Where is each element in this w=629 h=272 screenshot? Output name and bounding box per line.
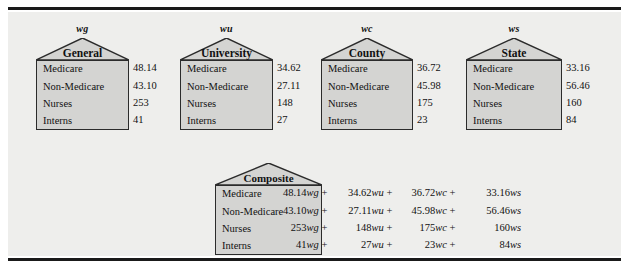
house-body: MedicareNon-MedicareNursesInterns: [321, 60, 413, 130]
plus-operator: +: [384, 239, 395, 250]
plus-operator: +: [384, 222, 395, 233]
house-value: 160: [566, 97, 582, 108]
house-row-list: MedicareNon-MedicareNursesInterns: [322, 61, 412, 129]
composite-term: 33.16ws: [459, 187, 521, 198]
house-value: 48.14: [133, 62, 157, 73]
weight-symbol: ws: [510, 205, 521, 216]
row-label: Medicare: [43, 63, 83, 74]
weight-symbol: wg: [307, 222, 319, 233]
house-roof: County: [321, 38, 413, 60]
row-label: Medicare: [473, 63, 513, 74]
house-roof: General: [36, 38, 129, 60]
house-title: State: [466, 47, 562, 59]
row-label: Interns: [43, 115, 72, 126]
weight-symbol: ws: [510, 187, 521, 198]
house-row-list: MedicareNon-MedicareNursesInterns: [37, 61, 128, 129]
composite-term: 45.98wc +: [396, 205, 458, 216]
row-label: Nurses: [43, 98, 72, 109]
plus-operator: +: [319, 205, 330, 216]
row-label: Interns: [222, 240, 251, 251]
plus-operator: +: [319, 187, 330, 198]
weight-symbol: wu: [372, 205, 384, 216]
row-label: Non-Medicare: [473, 81, 534, 92]
house-value: 84: [566, 114, 577, 125]
row-label: Interns: [187, 115, 216, 126]
plus-operator: +: [447, 239, 458, 250]
row-label: Medicare: [222, 188, 262, 199]
top-rule: [8, 7, 621, 10]
house-value: 27: [277, 114, 288, 125]
row-label: Non-Medicare: [328, 81, 389, 92]
composite-term: 84ws: [459, 239, 521, 250]
row-label: Medicare: [187, 63, 227, 74]
composite-term: 27wu +: [333, 239, 395, 250]
plus-operator: +: [319, 239, 330, 250]
weight-symbol: wu: [372, 222, 384, 233]
weight-symbol: wc: [435, 222, 447, 233]
composite-term: 48.14wg +: [268, 187, 330, 198]
house-row-list: MedicareNon-MedicareNursesInterns: [181, 61, 272, 129]
weight-symbol: wc: [435, 239, 447, 250]
plus-operator: +: [319, 222, 330, 233]
weight-symbol: wg: [307, 187, 319, 198]
row-label: Nurses: [222, 223, 251, 234]
weight-symbol: wg: [307, 239, 319, 250]
composite-term: 27.11wu +: [333, 205, 395, 216]
house-value: 33.16: [566, 62, 590, 73]
house-weight-label: wg: [36, 23, 129, 34]
house-value: 175: [417, 97, 433, 108]
house-row-list: MedicareNon-MedicareNursesInterns: [467, 61, 561, 129]
row-label: Interns: [328, 115, 357, 126]
composite-term: 43.10wg +: [268, 205, 330, 216]
weight-symbol: ws: [510, 239, 521, 250]
plus-operator: +: [447, 205, 458, 216]
weight-symbol: ws: [510, 222, 521, 233]
house-body: MedicareNon-MedicareNursesInterns: [466, 60, 562, 130]
row-label: Nurses: [328, 98, 357, 109]
house-value: 45.98: [417, 80, 441, 91]
plus-operator: +: [384, 205, 395, 216]
composite-term: 34.62wu +: [333, 187, 395, 198]
composite-term: 36.72wc +: [396, 187, 458, 198]
composite-term: 253wg +: [268, 222, 330, 233]
row-label: Interns: [473, 115, 502, 126]
house-title: Composite: [215, 172, 322, 184]
weight-symbol: wu: [372, 187, 384, 198]
weight-symbol: wg: [307, 205, 319, 216]
house-value: 56.46: [566, 80, 590, 91]
plus-operator: +: [447, 222, 458, 233]
composite-term: 23wc +: [396, 239, 458, 250]
row-label: Nurses: [473, 98, 502, 109]
weight-symbol: wc: [435, 205, 447, 216]
house-value: 27.11: [277, 80, 300, 91]
house-value: 36.72: [417, 62, 441, 73]
house-value: 23: [417, 114, 428, 125]
composite-term: 41wg +: [268, 239, 330, 250]
house-weight-label: wu: [180, 23, 273, 34]
bottom-rule: [8, 258, 621, 261]
house-weight-label: ws: [466, 23, 562, 34]
plus-operator: +: [447, 187, 458, 198]
row-label: Nurses: [187, 98, 216, 109]
house-title: University: [180, 47, 273, 59]
composite-term: 148wu +: [333, 222, 395, 233]
house-roof: Composite: [215, 163, 322, 185]
house-body: MedicareNon-MedicareNursesInterns: [36, 60, 129, 130]
house-value: 41: [133, 114, 144, 125]
plus-operator: +: [384, 187, 395, 198]
composite-term: 56.46ws: [459, 205, 521, 216]
house-value: 148: [277, 97, 293, 108]
row-label: Non-Medicare: [43, 81, 104, 92]
row-label: Medicare: [328, 63, 368, 74]
house-roof: University: [180, 38, 273, 60]
house-title: General: [36, 47, 129, 59]
house-body: MedicareNon-MedicareNursesInterns: [180, 60, 273, 130]
composite-term: 175wc +: [396, 222, 458, 233]
figure-canvas: wgGeneralMedicareNon-MedicareNursesInter…: [0, 0, 629, 272]
weight-symbol: wu: [372, 239, 384, 250]
house-value: 253: [133, 97, 149, 108]
composite-term: 160ws: [459, 222, 521, 233]
house-value: 43.10: [133, 80, 157, 91]
house-title: County: [321, 47, 413, 59]
row-label: Non-Medicare: [187, 81, 248, 92]
